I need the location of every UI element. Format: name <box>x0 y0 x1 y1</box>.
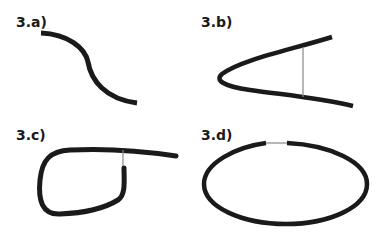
figure: 3.a) 3.b) 3.c) 3.d) <box>0 0 383 232</box>
ellipse-curve <box>204 143 367 224</box>
ellipse-diagram <box>0 0 383 232</box>
